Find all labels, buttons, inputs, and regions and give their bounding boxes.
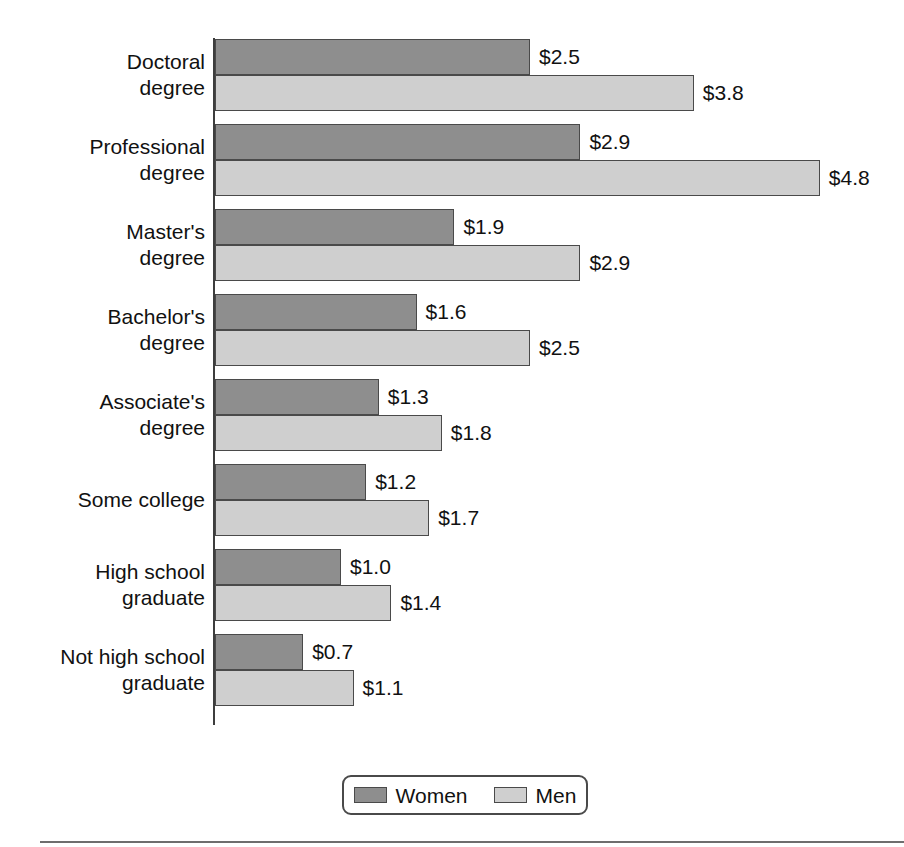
legend-item-women[interactable]: Women [354,785,468,806]
bar-row: $3.8 [215,75,904,111]
bar-row: $2.5 [215,330,904,366]
bar-women [215,294,417,330]
legend-label: Men [536,785,577,806]
bar-men [215,245,580,281]
bar-row: $4.8 [215,160,904,196]
bar-group: Some college$1.2$1.7 [40,464,904,536]
bar-value-label: $1.4 [400,592,441,614]
bar-row: $1.7 [215,500,904,536]
bar-group: Master's degree$1.9$2.9 [40,209,904,281]
bar-row: $1.8 [215,415,904,451]
bar-row: $2.5 [215,39,904,75]
bar-value-label: $1.9 [463,216,504,238]
plot-area: Doctoral degree$2.5$3.8Professional degr… [40,16,904,736]
bar-group: High school graduate$1.0$1.4 [40,549,904,621]
bar-row: $2.9 [215,245,904,281]
category-label: Associate's degree [40,389,205,441]
category-label: Professional degree [40,134,205,186]
bar-value-label: $1.6 [426,301,467,323]
bar-row: $1.4 [215,585,904,621]
category-label: Bachelor's degree [40,304,205,356]
bar-value-label: $2.5 [539,46,580,68]
bar-women [215,464,366,500]
bar-men [215,75,694,111]
category-label: Doctoral degree [40,49,205,101]
bar-group: Doctoral degree$2.5$3.8 [40,39,904,111]
bar-row: $1.1 [215,670,904,706]
category-label: Master's degree [40,219,205,271]
bar-men [215,160,820,196]
bar-value-label: $1.3 [388,386,429,408]
legend-item-men[interactable]: Men [494,785,577,806]
bar-group: Bachelor's degree$1.6$2.5 [40,294,904,366]
bar-value-label: $2.9 [589,252,630,274]
bar-row: $2.9 [215,124,904,160]
bar-value-label: $2.5 [539,337,580,359]
category-label: Not high school graduate [40,644,205,696]
bar-men [215,415,442,451]
bar-row: $1.3 [215,379,904,415]
bar-women [215,549,341,585]
bar-value-label: $1.1 [363,677,404,699]
legend-swatch-icon [494,787,527,803]
category-label: High school graduate [40,559,205,611]
bar-group: Professional degree$2.9$4.8 [40,124,904,196]
bar-value-label: $1.7 [438,507,479,529]
bar-women [215,634,303,670]
legend-swatch-icon [354,787,387,803]
bar-women [215,124,580,160]
bar-women [215,39,530,75]
bar-women [215,379,379,415]
footer-divider-rule [40,841,904,843]
bar-value-label: $4.8 [829,167,870,189]
legend-label: Women [396,785,468,806]
bar-men [215,330,530,366]
grouped-bar-chart: Doctoral degree$2.5$3.8Professional degr… [40,16,904,847]
bar-row: $0.7 [215,634,904,670]
bar-row: $1.9 [215,209,904,245]
bar-value-label: $2.9 [589,131,630,153]
bar-row: $1.2 [215,464,904,500]
bar-group: Not high school graduate$0.7$1.1 [40,634,904,706]
bar-value-label: $1.0 [350,556,391,578]
bar-men [215,670,354,706]
bar-men [215,500,429,536]
bar-value-label: $1.8 [451,422,492,444]
bar-women [215,209,454,245]
bar-men [215,585,391,621]
chart-legend: WomenMen [342,775,588,815]
bar-row: $1.6 [215,294,904,330]
bar-value-label: $3.8 [703,82,744,104]
bar-value-label: $1.2 [375,471,416,493]
category-label: Some college [40,487,205,513]
bar-value-label: $0.7 [312,641,353,663]
bar-row: $1.0 [215,549,904,585]
bar-group: Associate's degree$1.3$1.8 [40,379,904,451]
